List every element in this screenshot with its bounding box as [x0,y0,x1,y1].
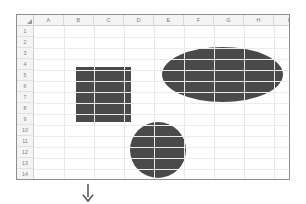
column-header-i[interactable]: I [274,15,290,25]
row-header-11[interactable]: 11 [17,136,33,147]
row-header-3[interactable]: 3 [17,48,33,59]
gridline-horizontal [34,158,290,159]
screenshot-canvas: ABCDEFGHI 123456789101112131415 [0,0,306,204]
gridline-horizontal [34,48,290,49]
column-header-a[interactable]: A [34,15,64,25]
gridline-horizontal [34,59,290,60]
column-header-b[interactable]: B [64,15,94,25]
gridline-horizontal [34,169,290,170]
gridline-horizontal [34,125,290,126]
column-header-row: ABCDEFGHI [34,15,290,26]
row-header-2[interactable]: 2 [17,37,33,48]
row-header-12[interactable]: 12 [17,147,33,158]
row-header-7[interactable]: 7 [17,92,33,103]
row-header-4[interactable]: 4 [17,59,33,70]
spreadsheet-grid[interactable]: ABCDEFGHI 123456789101112131415 [16,14,290,180]
row-header-5[interactable]: 5 [17,70,33,81]
row-header-1[interactable]: 1 [17,26,33,37]
gridline-horizontal [34,114,290,115]
row-header-8[interactable]: 8 [17,103,33,114]
row-header-column: 123456789101112131415 [17,26,34,180]
column-header-e[interactable]: E [154,15,184,25]
column-header-c[interactable]: C [94,15,124,25]
cell-grid-area[interactable] [34,26,290,180]
column-header-f[interactable]: F [184,15,214,25]
spreadsheet-inner: ABCDEFGHI 123456789101112131415 [17,15,289,179]
select-all-triangle-icon [27,19,32,24]
arrow-down-icon [79,183,97,203]
gridline-horizontal [34,103,290,104]
row-header-6[interactable]: 6 [17,81,33,92]
gridline-horizontal [34,37,290,38]
row-header-10[interactable]: 10 [17,125,33,136]
gridline-horizontal [34,81,290,82]
gridline-horizontal [34,92,290,93]
ellipse-shape[interactable] [162,47,283,102]
row-header-14[interactable]: 14 [17,169,33,180]
column-header-d[interactable]: D [124,15,154,25]
gridline-horizontal [34,136,290,137]
select-all-button[interactable] [17,15,34,26]
gridline-horizontal [34,147,290,148]
row-header-13[interactable]: 13 [17,158,33,169]
column-header-h[interactable]: H [244,15,274,25]
gridline-horizontal [34,70,290,71]
column-header-g[interactable]: G [214,15,244,25]
row-header-9[interactable]: 9 [17,114,33,125]
